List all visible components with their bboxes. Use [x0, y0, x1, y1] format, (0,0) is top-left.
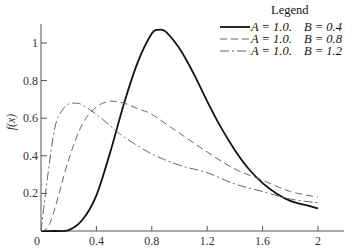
y-tick-label: 0.6 — [23, 111, 38, 125]
legend-b-label: B = 1.2 — [304, 44, 342, 58]
y-axis-label: f(x) — [4, 114, 18, 131]
y-tick-label: 0.4 — [23, 149, 38, 163]
x-tick-label: 1.2 — [200, 234, 215, 248]
legend-entries: A = 1.0.B = 0.4A = 1.0.B = 0.8A = 1.0.B … — [220, 20, 343, 58]
y-tick-label: 1 — [32, 36, 38, 50]
x-ticks: 00.40.81.21.62 — [34, 226, 321, 248]
legend-a-label: A = 1.0. — [250, 44, 292, 58]
series-line-dashed — [41, 101, 318, 231]
y-tick-label: 0.8 — [23, 74, 38, 88]
x-tick-label: 0 — [34, 234, 40, 248]
y-ticks: 0.20.40.60.81 — [23, 36, 47, 200]
legend-title: Legend — [271, 3, 309, 17]
weibull-density-chart: 00.40.81.21.62 0.20.40.60.81 f(x) Legend… — [0, 0, 352, 249]
axes — [41, 24, 344, 231]
x-tick-label: 2 — [315, 234, 321, 248]
legend: Legend A = 1.0.B = 0.4A = 1.0.B = 0.8A =… — [220, 3, 343, 58]
x-tick-label: 0.4 — [89, 234, 104, 248]
x-tick-label: 1.6 — [255, 234, 270, 248]
y-tick-label: 0.2 — [23, 186, 38, 200]
series-group — [41, 29, 318, 231]
series-line-solid — [41, 29, 318, 231]
series-line-dash-dot — [41, 103, 318, 231]
x-tick-label: 0.8 — [144, 234, 159, 248]
